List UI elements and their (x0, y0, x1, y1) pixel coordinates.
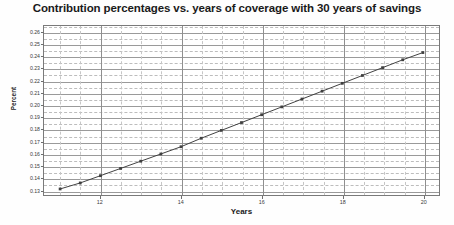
series-marker (401, 58, 404, 61)
x-tick-label: 14 (169, 199, 193, 205)
series-marker (240, 121, 243, 124)
series-marker (321, 90, 324, 93)
series-marker (180, 145, 183, 148)
y-axis-tick-labels: 0.130.140.150.160.170.180.190.200.210.22… (16, 25, 40, 196)
y-tick-mark (41, 68, 44, 69)
series-marker (59, 188, 62, 191)
series-marker (280, 105, 283, 108)
x-tick-label: 12 (88, 199, 112, 205)
x-tick-mark (343, 196, 344, 199)
series-marker (341, 82, 344, 85)
y-tick-mark (41, 81, 44, 82)
y-tick-mark (41, 178, 44, 179)
series-marker (200, 137, 203, 140)
series-marker (220, 129, 223, 132)
y-tick-mark (41, 142, 44, 143)
x-axis-title: Years (43, 207, 440, 216)
y-tick-label: 0.26 (16, 29, 40, 35)
series-marker (260, 113, 263, 116)
plot-area (43, 25, 440, 196)
series-marker (381, 66, 384, 69)
y-tick-label: 0.22 (16, 78, 40, 84)
x-tick-mark (262, 196, 263, 199)
x-tick-label: 20 (412, 199, 436, 205)
x-tick-label: 18 (331, 199, 355, 205)
y-tick-mark (41, 105, 44, 106)
series-marker (421, 51, 424, 54)
y-tick-mark (41, 93, 44, 94)
x-tick-label: 16 (250, 199, 274, 205)
chart-title: Contribution percentages vs. years of co… (0, 2, 454, 14)
series-marker (361, 74, 364, 77)
chart-container: Contribution percentages vs. years of co… (0, 0, 454, 225)
series-marker (119, 167, 122, 170)
y-tick-label: 0.16 (16, 151, 40, 157)
y-tick-mark (41, 32, 44, 33)
series-marker (159, 153, 162, 156)
series-marker (139, 160, 142, 163)
y-tick-mark (41, 166, 44, 167)
series-marker (79, 182, 82, 185)
y-tick-label: 0.19 (16, 114, 40, 120)
y-tick-label: 0.23 (16, 65, 40, 71)
y-tick-label: 0.25 (16, 41, 40, 47)
series-line (60, 53, 423, 189)
y-tick-mark (41, 191, 44, 192)
y-tick-label: 0.20 (16, 102, 40, 108)
x-tick-mark (181, 196, 182, 199)
y-tick-mark (41, 44, 44, 45)
y-tick-mark (41, 129, 44, 130)
y-tick-mark (41, 56, 44, 57)
y-tick-mark (41, 117, 44, 118)
x-tick-mark (424, 196, 425, 199)
y-tick-label: 0.13 (16, 188, 40, 194)
series-marker (301, 98, 304, 101)
y-tick-label: 0.17 (16, 139, 40, 145)
y-tick-label: 0.21 (16, 90, 40, 96)
series-marker (99, 174, 102, 177)
x-tick-mark (100, 196, 101, 199)
y-tick-label: 0.14 (16, 175, 40, 181)
y-tick-mark (41, 154, 44, 155)
y-tick-label: 0.18 (16, 126, 40, 132)
y-tick-label: 0.24 (16, 53, 40, 59)
data-line-series (44, 26, 439, 195)
y-tick-label: 0.15 (16, 163, 40, 169)
